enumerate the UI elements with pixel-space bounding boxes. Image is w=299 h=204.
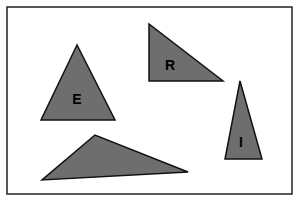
- triangle-label-r: R: [165, 57, 175, 73]
- diagram-canvas: ERI: [0, 0, 299, 204]
- triangle-label-i: I: [239, 134, 243, 150]
- triangle-label-e: E: [72, 91, 81, 107]
